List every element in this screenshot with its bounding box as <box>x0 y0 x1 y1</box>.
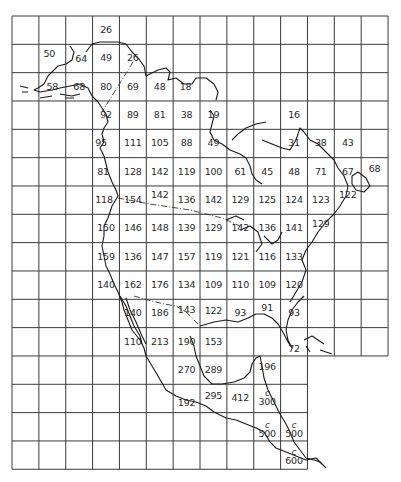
cell-value: 111 <box>124 138 142 148</box>
value-text: 213 <box>151 336 169 347</box>
cell-value: 69 <box>127 82 139 92</box>
cell-value: 31 <box>288 138 300 148</box>
value-text: 58 <box>46 81 58 92</box>
cell-value: 119 <box>178 167 196 177</box>
value-text: 140 <box>124 307 142 318</box>
value-text: 16 <box>288 109 300 120</box>
cell-value: 88 <box>181 138 193 148</box>
value-text: 45 <box>261 166 273 177</box>
value-text: 81 <box>154 109 166 120</box>
cell-value: 134 <box>178 280 196 290</box>
cell-value: 110 <box>232 280 250 290</box>
cell-value: 71 <box>315 167 327 177</box>
cell-value: 100 <box>205 167 223 177</box>
cell-value: 270 <box>178 365 196 375</box>
value-text: 270 <box>178 364 196 375</box>
value-text: 150 <box>97 222 115 233</box>
value-text: 19 <box>208 109 220 120</box>
cell-value: 146 <box>124 223 142 233</box>
value-text: 89 <box>127 109 139 120</box>
value-text: 31 <box>288 137 300 148</box>
value-text: 91 <box>261 302 273 313</box>
value-text: 136 <box>178 194 196 205</box>
value-text: 123 <box>312 194 330 205</box>
value-text: 61 <box>234 166 246 177</box>
cell-value: 122 <box>205 306 223 316</box>
cell-value: c500 <box>285 421 303 439</box>
cell-value: 16 <box>288 110 300 120</box>
cell-value: 120 <box>285 280 303 290</box>
cell-value: 136 <box>178 195 196 205</box>
cell-value: 190 <box>178 337 196 347</box>
cell-value: 89 <box>127 110 139 120</box>
cell-value: 45 <box>261 167 273 177</box>
cell-value: 140 <box>124 308 142 318</box>
cell-value: 142 <box>205 195 223 205</box>
value-text: 49 <box>100 52 112 63</box>
cell-value: 38 <box>181 110 193 120</box>
cell-value: 93 <box>234 308 246 318</box>
value-text: 140 <box>97 279 115 290</box>
cell-value: 72 <box>288 344 300 354</box>
cell-value: 412 <box>232 393 250 403</box>
cell-value: 50 <box>43 49 55 59</box>
cell-value: 150 <box>97 223 115 233</box>
value-text: 295 <box>205 390 223 401</box>
value-text: 134 <box>178 279 196 290</box>
cell-value: 143 <box>178 305 196 315</box>
cell-value: 26 <box>100 25 112 35</box>
value-text: 124 <box>285 194 303 205</box>
cell-value: 123 <box>312 195 330 205</box>
value-text: 148 <box>151 222 169 233</box>
cell-value: 48 <box>288 167 300 177</box>
cell-value: 18 <box>180 82 192 92</box>
grid-lines <box>12 16 388 469</box>
cell-value: 129 <box>205 223 223 233</box>
value-text: 121 <box>232 251 250 262</box>
value-text: 118 <box>95 194 113 205</box>
north-america-grid-map <box>0 0 401 482</box>
value-text: 105 <box>151 137 169 148</box>
value-text: 26 <box>100 24 112 35</box>
value-text: 49 <box>208 137 220 148</box>
cell-value: c600 <box>285 448 303 466</box>
cell-value: 58 <box>46 82 58 92</box>
cell-value: 121 <box>232 252 250 262</box>
value-text: 186 <box>151 307 169 318</box>
value-text: 125 <box>258 194 276 205</box>
value-text: 142 <box>205 194 223 205</box>
value-text: 500 <box>285 428 303 439</box>
cell-value: 67 <box>342 167 354 177</box>
cell-value: 43 <box>342 138 354 148</box>
value-text: 120 <box>285 279 303 290</box>
cell-value: 105 <box>151 138 169 148</box>
value-text: 147 <box>151 251 169 262</box>
cell-value: 159 <box>97 252 115 262</box>
cell-value: c500 <box>258 421 276 439</box>
value-text: 68 <box>73 81 85 92</box>
value-text: 81 <box>97 166 109 177</box>
value-text: 289 <box>205 364 223 375</box>
value-text: 300 <box>258 396 276 407</box>
cell-value: 116 <box>258 252 276 262</box>
value-text: 43 <box>342 137 354 148</box>
value-text: 119 <box>205 251 223 262</box>
cell-value: 124 <box>285 195 303 205</box>
cell-value: 26 <box>127 53 139 63</box>
value-text: 93 <box>288 307 300 318</box>
cell-value: 91 <box>261 303 273 313</box>
value-text: 122 <box>339 189 357 200</box>
cell-value: 92 <box>100 110 112 120</box>
cell-value: 192 <box>178 398 196 408</box>
cell-value: 95 <box>95 138 107 148</box>
value-text: 50 <box>43 48 55 59</box>
value-text: 48 <box>154 81 166 92</box>
cell-value: 289 <box>205 365 223 375</box>
value-text: 64 <box>75 53 87 64</box>
value-text: 109 <box>205 279 223 290</box>
cell-value: 157 <box>178 252 196 262</box>
cell-value: 93 <box>288 308 300 318</box>
value-text: 122 <box>205 305 223 316</box>
cell-value: 136 <box>124 252 142 262</box>
cell-value: 153 <box>205 337 223 347</box>
